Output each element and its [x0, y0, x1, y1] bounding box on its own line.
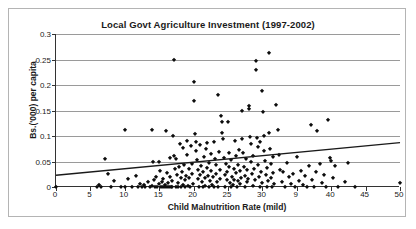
- x-tick-label: 25: [223, 190, 232, 199]
- y-axis-tick-labels: 00.050.10.150.20.250.3: [13, 34, 51, 187]
- chart-frame: Local Govt Agriculture Investment (1997-…: [8, 8, 406, 217]
- trendline: [56, 34, 400, 187]
- x-tick-label: 30: [257, 190, 266, 199]
- x-tick-label: 50: [395, 190, 404, 199]
- x-tick-label: 45: [360, 190, 369, 199]
- y-tick-label: 0.2: [17, 81, 51, 90]
- x-tick-label: 15: [154, 190, 163, 199]
- y-tick-label: 0.25: [17, 55, 51, 64]
- y-tick-label: 0.15: [17, 106, 51, 115]
- y-tick-label: 0: [17, 183, 51, 192]
- plot-area: [55, 34, 399, 187]
- x-tick-label: 40: [326, 190, 335, 199]
- x-tick-label: 20: [188, 190, 197, 199]
- y-tick-label: 0.1: [17, 132, 51, 141]
- x-tick-label: 5: [87, 190, 91, 199]
- chart-title: Local Govt Agriculture Investment (1997-…: [9, 19, 407, 30]
- x-axis-title: Child Malnutrition Rate (mild): [55, 202, 399, 212]
- x-tick-label: 0: [53, 190, 57, 199]
- y-tick-label: 0.3: [17, 30, 51, 39]
- x-tick-label: 9: [294, 190, 298, 199]
- x-tick-label: 10: [119, 190, 128, 199]
- y-tick-label: 0.05: [17, 157, 51, 166]
